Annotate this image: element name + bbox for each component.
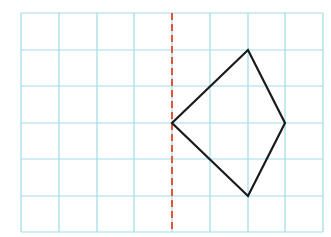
grid-diagram — [0, 0, 331, 237]
